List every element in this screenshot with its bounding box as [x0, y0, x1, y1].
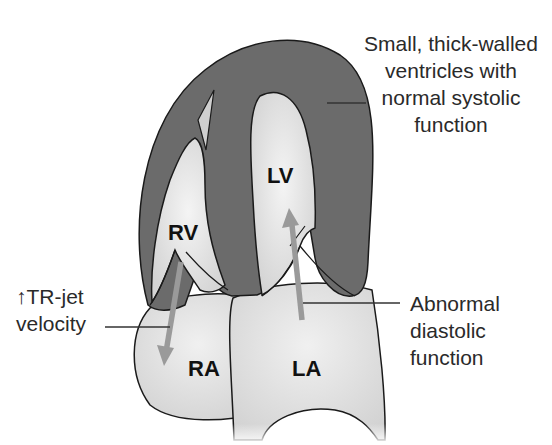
label-la: LA: [292, 355, 321, 382]
callout-ventricles-line: normal systolic: [352, 84, 550, 111]
callout-diastolic: Abnormal diastolic function: [410, 290, 500, 371]
callout-diastolic-line: Abnormal: [410, 290, 500, 317]
callout-tr-jet: ↑TR-jet velocity: [16, 283, 86, 337]
up-arrow-icon: ↑: [16, 285, 27, 308]
callout-diastolic-line: diastolic: [410, 317, 500, 344]
callout-tr-jet-line: velocity: [16, 310, 86, 337]
callout-ventricles-line: Small, thick-walled: [352, 30, 550, 57]
callout-ventricles-line: ventricles with: [352, 57, 550, 84]
label-rv: RV: [168, 219, 198, 246]
callout-ventricles: Small, thick-walled ventricles with norm…: [352, 30, 550, 138]
label-ra: RA: [188, 355, 220, 382]
callout-diastolic-line: function: [410, 344, 500, 371]
label-lv: LV: [267, 162, 293, 189]
callout-tr-jet-line: TR-jet: [27, 285, 84, 308]
callout-ventricles-line: function: [352, 111, 550, 138]
